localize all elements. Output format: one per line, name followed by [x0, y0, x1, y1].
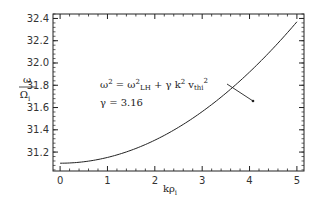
y-tick-label: 31.4 [27, 124, 49, 135]
y-tick-label: 32.2 [27, 35, 49, 46]
annotation-arrow [227, 84, 253, 101]
y-tick-label: 32.0 [27, 57, 49, 68]
x-tick-label: 1 [104, 175, 110, 186]
y-axis-ticks: 31.231.431.631.832.032.232.4 [27, 13, 304, 170]
y-tick-label: 31.2 [27, 147, 49, 158]
x-tick-label: 5 [294, 175, 300, 186]
dispersion-curve [60, 22, 297, 163]
equation-annotation: ω2 = ω2LH + γ k2 vthi2 [100, 77, 208, 92]
xlabel: kρi [163, 183, 178, 197]
plot-frame [53, 14, 304, 171]
gamma-annotation: γ = 3.16 [100, 97, 143, 108]
x-tick-label: 3 [199, 175, 205, 186]
ylabel-denominator: Ωi [20, 89, 31, 103]
y-tick-label: 32.4 [27, 13, 49, 24]
chart: 31.231.431.631.832.032.232.4 012345 ω Ωi… [0, 0, 321, 202]
x-tick-label: 0 [57, 175, 63, 186]
x-tick-label: 4 [246, 175, 252, 186]
y-tick-label: 31.6 [27, 102, 49, 113]
x-tick-label: 2 [152, 175, 158, 186]
ylabel-numerator: ω [23, 74, 31, 85]
arrow-head [252, 100, 255, 103]
